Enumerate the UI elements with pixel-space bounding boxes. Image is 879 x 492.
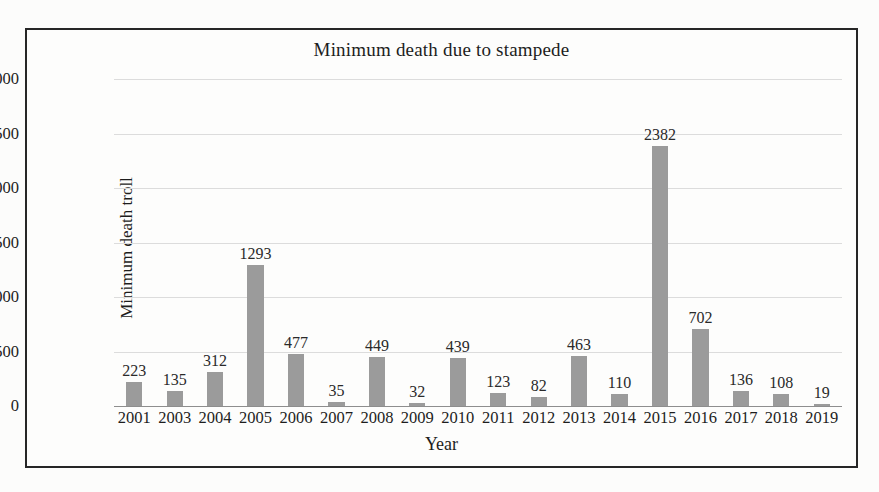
axis-baseline [114, 406, 842, 407]
bar [167, 391, 183, 406]
x-axis-tick-label: 2013 [559, 408, 599, 428]
bar [692, 329, 708, 406]
x-axis-tick-label: 2008 [357, 408, 397, 428]
bar [490, 393, 506, 406]
bar [652, 146, 668, 406]
bar-group: 1293 [235, 79, 275, 406]
bar-value-label: 35 [316, 382, 356, 400]
x-axis-tick-label: 2014 [599, 408, 639, 428]
bar-group: 19 [802, 79, 842, 406]
bar [571, 356, 587, 406]
x-axis-tick-label: 2010 [438, 408, 478, 428]
x-axis-tick-label: 2019 [802, 408, 842, 428]
bar-group: 123 [478, 79, 518, 406]
bar [247, 265, 263, 406]
bar-group: 32 [397, 79, 437, 406]
x-axis-tick-label: 2005 [235, 408, 275, 428]
y-axis-tick-label: 3,000 [0, 69, 19, 89]
x-axis-tick-label: 2009 [397, 408, 437, 428]
x-axis-tick-label: 2017 [721, 408, 761, 428]
bar-value-label: 32 [397, 383, 437, 401]
bar-value-label: 136 [721, 371, 761, 389]
bar-value-label: 135 [154, 371, 194, 389]
x-axis-title: Year [27, 434, 856, 455]
bar-group: 35 [316, 79, 356, 406]
bar-group: 439 [438, 79, 478, 406]
bar [288, 354, 304, 406]
bar-value-label: 19 [802, 384, 842, 402]
bar-group: 449 [357, 79, 397, 406]
y-axis-tick-label: 2,500 [0, 124, 19, 144]
y-axis-tick-label: 1,000 [0, 287, 19, 307]
y-axis-tick-label: 0 [11, 396, 19, 416]
x-axis-tick-label: 2006 [276, 408, 316, 428]
x-axis-tick-label: 2011 [478, 408, 518, 428]
x-axis-tick-label: 2012 [518, 408, 558, 428]
x-axis-tick-label: 2018 [761, 408, 801, 428]
bar [328, 402, 344, 406]
chart-title: Minimum death due to stampede [27, 39, 856, 61]
bar-group: 136 [721, 79, 761, 406]
bar [409, 403, 425, 406]
bar-group: 477 [276, 79, 316, 406]
bar-group: 108 [761, 79, 801, 406]
bar-group: 223 [114, 79, 154, 406]
bar-group: 463 [559, 79, 599, 406]
bar-value-label: 477 [276, 334, 316, 352]
bar-value-label: 110 [599, 374, 639, 392]
x-axis-tick-label: 2015 [640, 408, 680, 428]
bar-value-label: 123 [478, 373, 518, 391]
bar-value-label: 463 [559, 336, 599, 354]
bar [611, 394, 627, 406]
bar-group: 312 [195, 79, 235, 406]
x-axis-tick-labels: 2001200320042005200620072008200920102011… [114, 408, 842, 434]
bar [450, 358, 466, 406]
chart-figure-frame: Minimum death due to stampede Minimum de… [25, 28, 858, 468]
bar-value-label: 702 [680, 309, 720, 327]
bar-group: 135 [154, 79, 194, 406]
y-axis-tick-label: 2,000 [0, 178, 19, 198]
bar-value-label: 1293 [235, 245, 275, 263]
bar [531, 397, 547, 406]
bar-group: 702 [680, 79, 720, 406]
bar [733, 391, 749, 406]
bar-group: 82 [518, 79, 558, 406]
y-axis-tick-label: 1,500 [0, 233, 19, 253]
bar-group: 110 [599, 79, 639, 406]
x-axis-tick-label: 2003 [154, 408, 194, 428]
x-axis-tick-label: 2016 [680, 408, 720, 428]
bar-value-label: 312 [195, 352, 235, 370]
bar [814, 404, 830, 406]
bar [126, 382, 142, 406]
bar-value-label: 223 [114, 362, 154, 380]
bar [207, 372, 223, 406]
x-axis-tick-label: 2001 [114, 408, 154, 428]
bar [369, 357, 385, 406]
y-axis-tick-label: 500 [0, 342, 19, 362]
bar-group: 2382 [640, 79, 680, 406]
bar-value-label: 108 [761, 374, 801, 392]
bar-value-label: 439 [438, 338, 478, 356]
bar-value-label: 82 [518, 377, 558, 395]
x-axis-tick-label: 2004 [195, 408, 235, 428]
y-axis-tick-labels: 05001,0001,5002,0002,5003,000 [0, 79, 27, 406]
bar [773, 394, 789, 406]
plot-area: 2231353121293477354493243912382463110238… [114, 79, 842, 406]
scanned-page-background: Minimum death due to stampede Minimum de… [0, 0, 879, 492]
bar-value-label: 2382 [640, 126, 680, 144]
bar-series: 2231353121293477354493243912382463110238… [114, 79, 842, 406]
bar-value-label: 449 [357, 337, 397, 355]
x-axis-tick-label: 2007 [316, 408, 356, 428]
